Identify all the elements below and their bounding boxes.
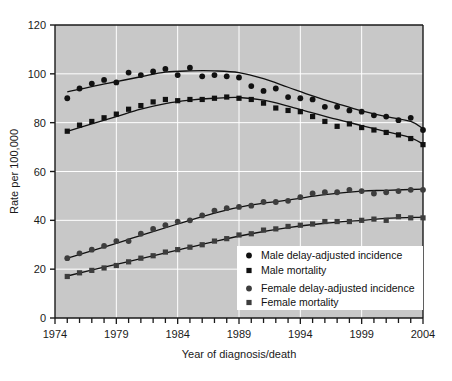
data-point-square xyxy=(77,270,82,275)
data-point-circle xyxy=(126,70,132,76)
data-point-circle xyxy=(285,198,291,204)
data-point-square xyxy=(335,219,340,224)
data-point-circle xyxy=(248,83,254,89)
data-point-square xyxy=(224,236,229,241)
data-point-circle xyxy=(212,208,218,214)
data-point-square xyxy=(163,249,168,254)
data-point-square xyxy=(224,94,229,99)
y-axis-title: Rate per 100,000 xyxy=(8,129,20,214)
data-point-square xyxy=(335,124,340,129)
rate-trend-chart: 0204060801001201974197919841989199419992… xyxy=(0,0,452,381)
data-point-circle xyxy=(261,199,267,205)
data-point-circle xyxy=(236,204,242,210)
legend-item: Male delay-adjusted incidence xyxy=(246,249,402,261)
data-point-circle xyxy=(64,255,70,261)
data-point-square xyxy=(138,256,143,261)
x-tick-label: 1999 xyxy=(349,328,373,340)
data-point-circle xyxy=(163,222,169,228)
data-point-circle xyxy=(359,109,365,115)
data-point-square xyxy=(285,224,290,229)
data-point-circle xyxy=(138,231,144,237)
data-point-circle xyxy=(334,104,340,110)
data-point-circle xyxy=(89,81,95,87)
data-point-circle xyxy=(371,112,377,118)
data-point-square xyxy=(285,108,290,113)
x-tick-label: 2004 xyxy=(411,328,435,340)
data-point-circle xyxy=(224,205,230,211)
legend-label: Female mortality xyxy=(261,296,339,308)
data-point-square xyxy=(200,97,205,102)
data-point-circle xyxy=(334,189,340,195)
data-point-square xyxy=(77,123,82,128)
data-point-circle xyxy=(310,97,316,103)
data-point-circle xyxy=(138,72,144,78)
data-point-square xyxy=(126,107,131,112)
data-point-circle xyxy=(101,243,107,249)
data-point-square xyxy=(396,132,401,137)
data-point-circle xyxy=(273,199,279,205)
legend-marker-square xyxy=(246,268,251,273)
data-point-circle xyxy=(77,86,83,92)
data-point-square xyxy=(101,265,106,270)
data-point-circle xyxy=(371,191,377,197)
data-point-circle xyxy=(359,188,365,194)
data-point-circle xyxy=(126,238,132,244)
legend-marker-circle xyxy=(246,253,252,259)
x-tick-label: 1974 xyxy=(43,328,67,340)
legend-item: Female mortality xyxy=(246,296,339,308)
data-point-square xyxy=(347,121,352,126)
legend-marker-circle xyxy=(246,286,252,292)
legend-label: Male mortality xyxy=(261,264,327,276)
data-point-circle xyxy=(163,66,169,72)
data-point-square xyxy=(151,99,156,104)
y-axis-title-group: Rate per 100,000 xyxy=(8,129,20,214)
data-point-circle xyxy=(396,117,402,123)
data-point-circle xyxy=(150,226,156,232)
data-point-square xyxy=(249,97,254,102)
data-point-circle xyxy=(199,73,205,79)
data-point-square xyxy=(175,247,180,252)
x-axis-title: Year of diagnosis/death xyxy=(182,348,297,360)
y-tick-label: 0 xyxy=(40,312,46,324)
data-point-square xyxy=(65,274,70,279)
legend-item: Female delay-adjusted incidence xyxy=(246,282,415,294)
data-point-square xyxy=(236,232,241,237)
data-point-circle xyxy=(261,88,267,94)
data-point-square xyxy=(359,218,364,223)
legend-label: Female delay-adjusted incidence xyxy=(261,282,415,294)
data-point-circle xyxy=(297,194,303,200)
data-point-circle xyxy=(89,247,95,253)
data-point-circle xyxy=(408,115,414,121)
data-point-square xyxy=(261,228,266,233)
data-point-circle xyxy=(420,187,426,193)
y-tick-label: 80 xyxy=(34,117,46,129)
data-point-circle xyxy=(236,75,242,81)
data-point-square xyxy=(371,217,376,222)
data-point-square xyxy=(65,129,70,134)
data-point-square xyxy=(163,97,168,102)
data-point-circle xyxy=(101,77,107,83)
data-point-circle xyxy=(322,104,328,110)
data-point-circle xyxy=(383,114,389,120)
data-point-circle xyxy=(396,188,402,194)
y-tick-label: 40 xyxy=(34,214,46,226)
data-point-circle xyxy=(113,238,119,244)
y-tick-label: 60 xyxy=(34,166,46,178)
data-point-circle xyxy=(77,250,83,256)
chart-container: 0204060801001201974197919841989199419992… xyxy=(0,0,452,381)
data-point-circle xyxy=(113,79,119,85)
data-point-circle xyxy=(273,86,279,92)
data-point-square xyxy=(420,142,425,147)
data-point-square xyxy=(249,231,254,236)
data-point-square xyxy=(89,268,94,273)
data-point-square xyxy=(298,223,303,228)
data-point-circle xyxy=(199,213,205,219)
data-point-circle xyxy=(187,65,193,71)
legend-label: Male delay-adjusted incidence xyxy=(261,249,402,261)
data-point-square xyxy=(298,109,303,114)
data-point-square xyxy=(359,125,364,130)
data-point-square xyxy=(151,253,156,258)
data-point-square xyxy=(384,130,389,135)
data-point-square xyxy=(212,96,217,101)
data-point-circle xyxy=(224,73,230,79)
